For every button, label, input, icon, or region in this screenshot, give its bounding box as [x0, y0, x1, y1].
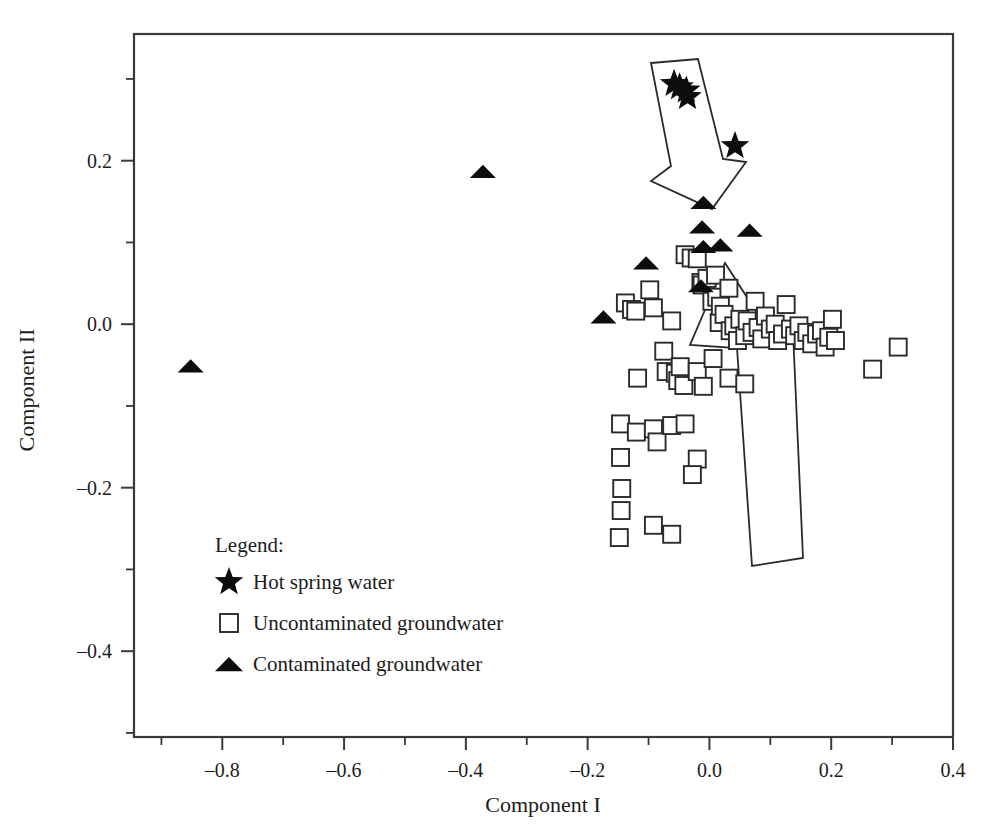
data-point-uncontaminated: [684, 466, 701, 483]
data-point-hot-spring: [721, 131, 750, 158]
data-point-uncontaminated: [778, 296, 795, 313]
y-axis-ticks: [121, 79, 134, 733]
data-point-uncontaminated: [890, 339, 907, 356]
x-tick-label: 0.0: [697, 759, 722, 781]
plot-canvas: –0.8–0.6–0.4–0.20.00.20.4 0.20.0–0.2–0.4…: [0, 0, 994, 839]
legend-entries: Hot spring waterUncontaminated groundwat…: [215, 567, 503, 676]
data-point-uncontaminated: [663, 526, 680, 543]
x-axis-title: Component I: [485, 792, 601, 817]
data-point-uncontaminated: [641, 281, 658, 298]
data-point-uncontaminated: [627, 303, 644, 320]
x-tick-label: –0.4: [447, 759, 483, 781]
data-point-contaminated: [590, 310, 616, 323]
data-point-uncontaminated: [649, 433, 666, 450]
legend-entry-label: Contaminated groundwater: [253, 652, 482, 676]
data-point-contaminated: [470, 165, 496, 178]
data-point-uncontaminated: [645, 299, 662, 316]
x-axis-tick-labels: –0.8–0.6–0.4–0.20.00.20.4: [204, 759, 966, 781]
data-point-uncontaminated: [695, 378, 712, 395]
data-point-uncontaminated: [613, 480, 630, 497]
data-point-uncontaminated: [612, 415, 629, 432]
data-point-uncontaminated: [645, 517, 662, 534]
y-axis-title: Component II: [14, 329, 39, 452]
data-point-uncontaminated: [689, 451, 706, 468]
data-point-uncontaminated: [705, 350, 722, 367]
data-point-uncontaminated: [663, 312, 680, 329]
legend-entry-label: Uncontaminated groundwater: [253, 611, 503, 635]
y-tick-label: 0.2: [87, 150, 112, 172]
x-tick-label: 0.4: [941, 759, 966, 781]
y-tick-label: –0.4: [76, 640, 112, 662]
data-point-uncontaminated: [720, 280, 737, 297]
chart-legend: Legend: Hot spring waterUncontaminated g…: [215, 533, 503, 676]
legend-star-icon: [215, 567, 244, 594]
x-tick-label: 0.2: [819, 759, 844, 781]
x-axis-ticks: [161, 737, 953, 750]
series-uncontaminated-groundwater: [611, 246, 907, 546]
y-tick-label: 0.0: [87, 313, 112, 335]
series-contaminated-groundwater: [178, 165, 763, 373]
data-point-uncontaminated: [613, 502, 630, 519]
data-point-contaminated: [737, 224, 763, 237]
data-point-uncontaminated: [655, 343, 672, 360]
data-point-uncontaminated: [611, 529, 628, 546]
data-point-uncontaminated: [612, 449, 629, 466]
scatter-plot-figure: –0.8–0.6–0.4–0.20.00.20.4 0.20.0–0.2–0.4…: [0, 0, 994, 839]
data-point-uncontaminated: [824, 311, 841, 328]
legend-entry-label: Hot spring water: [253, 570, 394, 594]
data-point-uncontaminated: [672, 358, 689, 375]
data-point-uncontaminated: [677, 415, 694, 432]
data-point-contaminated: [707, 238, 733, 251]
data-point-contaminated: [633, 256, 659, 269]
data-point-uncontaminated: [827, 332, 844, 349]
legend-square-icon: [220, 614, 238, 632]
y-axis-tick-labels: 0.20.0–0.2–0.4: [76, 150, 112, 662]
legend-title: Legend:: [215, 533, 284, 557]
y-tick-label: –0.2: [76, 477, 112, 499]
data-point-contaminated: [178, 359, 204, 372]
data-point-contaminated: [690, 196, 716, 209]
x-tick-label: –0.8: [204, 759, 240, 781]
data-point-uncontaminated: [720, 370, 737, 387]
legend-triangle-icon: [215, 657, 243, 671]
data-point-uncontaminated: [736, 375, 753, 392]
data-point-contaminated: [689, 220, 715, 233]
x-tick-label: –0.6: [326, 759, 362, 781]
data-point-uncontaminated: [629, 370, 646, 387]
data-point-uncontaminated: [628, 424, 645, 441]
x-tick-label: –0.2: [569, 759, 605, 781]
data-point-uncontaminated: [864, 361, 881, 378]
